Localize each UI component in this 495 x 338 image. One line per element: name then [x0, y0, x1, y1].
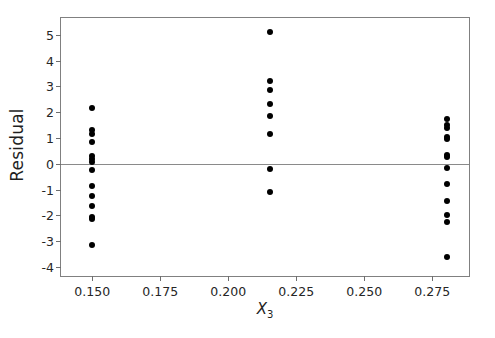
x-tick-mark: [432, 276, 433, 281]
x-tick-mark: [160, 276, 161, 281]
data-point: [267, 189, 273, 195]
data-point: [444, 254, 450, 260]
y-axis-label: Residual: [2, 0, 32, 290]
y-tick-mark: [56, 241, 61, 242]
data-point: [89, 242, 95, 248]
x-axis-label-base: X: [257, 300, 267, 318]
y-tick-label: 1: [46, 130, 54, 145]
y-tick-mark: [56, 267, 61, 268]
y-tick-mark: [56, 112, 61, 113]
x-tick-mark: [296, 276, 297, 281]
y-tick-label: 2: [46, 105, 54, 120]
y-tick-mark: [56, 190, 61, 191]
data-point: [267, 78, 273, 84]
x-tick-mark: [228, 276, 229, 281]
data-point: [444, 154, 450, 160]
zero-reference-line: [61, 164, 469, 165]
data-point: [89, 167, 95, 173]
y-axis-label-text: Residual: [7, 108, 27, 181]
x-tick-label: 0.275: [414, 284, 450, 299]
data-point: [89, 105, 95, 111]
data-point: [267, 166, 273, 172]
data-point: [267, 131, 273, 137]
x-tick-label: 0.200: [210, 284, 246, 299]
data-point: [444, 136, 450, 142]
y-tick-label: 4: [46, 53, 54, 68]
data-point: [89, 216, 95, 222]
y-tick-label: -3: [42, 234, 54, 249]
data-point: [444, 181, 450, 187]
plot-area: 543210-1-2-3-4 0.1500.1750.2000.2250.250…: [60, 17, 470, 277]
y-tick-label: 5: [46, 27, 54, 42]
data-point: [89, 193, 95, 199]
y-tick-mark: [56, 215, 61, 216]
y-tick-mark: [56, 138, 61, 139]
data-point: [267, 87, 273, 93]
x-tick-label: 0.150: [74, 284, 110, 299]
x-axis-label: X3: [60, 300, 470, 320]
data-point: [89, 139, 95, 145]
x-tick-label: 0.225: [278, 284, 314, 299]
data-point: [267, 113, 273, 119]
y-tick-mark: [56, 86, 61, 87]
data-point: [444, 165, 450, 171]
data-point: [267, 101, 273, 107]
x-tick-label: 0.250: [346, 284, 382, 299]
data-point: [444, 116, 450, 122]
data-point: [89, 203, 95, 209]
y-tick-label: -4: [42, 259, 54, 274]
x-tick-mark: [364, 276, 365, 281]
data-point: [444, 198, 450, 204]
x-axis-label-subscript: 3: [267, 309, 273, 320]
y-tick-mark: [56, 35, 61, 36]
y-tick-label: 3: [46, 79, 54, 94]
y-tick-label: 0: [46, 156, 54, 171]
x-tick-mark: [92, 276, 93, 281]
y-tick-mark: [56, 61, 61, 62]
data-point: [89, 183, 95, 189]
y-tick-label: -1: [42, 182, 54, 197]
y-tick-label: -2: [42, 208, 54, 223]
data-point: [444, 219, 450, 225]
data-point: [444, 212, 450, 218]
data-point: [267, 29, 273, 35]
residual-scatter-plot: Residual 543210-1-2-3-4 0.1500.1750.2000…: [0, 0, 495, 338]
data-point: [89, 131, 95, 137]
data-point: [444, 125, 450, 131]
x-tick-label: 0.175: [142, 284, 178, 299]
